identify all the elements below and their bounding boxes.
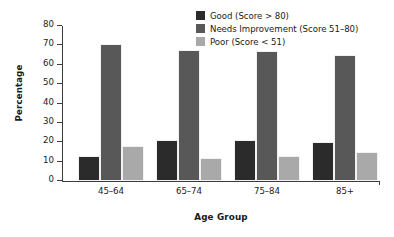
y-axis-tick-label: 20	[43, 135, 54, 146]
y-axis-tick: 60	[57, 64, 62, 65]
bar	[256, 51, 278, 181]
bar-group	[72, 26, 150, 181]
y-axis-label: Percentage	[14, 8, 28, 178]
y-axis-tick-label: 60	[43, 58, 54, 69]
bar	[78, 156, 100, 181]
y-axis-tick: 50	[57, 83, 62, 84]
bar	[200, 158, 222, 181]
legend-swatch-good	[196, 11, 205, 20]
y-axis-tick: 70	[57, 44, 62, 45]
y-axis-tick-label: 50	[43, 77, 54, 88]
legend-item-good: Good (Score > 80)	[196, 10, 358, 21]
bar-group	[228, 26, 306, 181]
x-axis-line	[62, 181, 380, 182]
y-axis-tick: 30	[57, 122, 62, 123]
bar	[312, 142, 334, 181]
bar	[356, 152, 378, 181]
bar	[100, 44, 122, 181]
y-axis-tick: 80	[57, 25, 62, 26]
legend-label-good: Good (Score > 80)	[210, 11, 289, 21]
bar-chart: Good (Score > 80) Needs Improvement (Sco…	[0, 0, 394, 237]
y-axis-tick-label: 0	[49, 174, 54, 185]
bar	[234, 140, 256, 181]
x-axis-tick-label: 65–74	[150, 186, 228, 196]
y-axis-tick: 20	[57, 141, 62, 142]
x-axis-tick-label: 85+	[306, 186, 384, 196]
x-axis-label: Age Group	[62, 212, 380, 222]
bar	[334, 55, 356, 181]
x-axis-tick-label: 75–84	[228, 186, 306, 196]
y-axis-tick: 10	[57, 161, 62, 162]
y-axis-tick-label: 40	[43, 97, 54, 108]
y-axis-tick-label: 70	[43, 38, 54, 49]
y-axis-tick-label: 80	[43, 19, 54, 30]
bar	[156, 140, 178, 181]
y-axis-tick: 0	[57, 180, 62, 181]
bar	[278, 156, 300, 181]
bar	[178, 50, 200, 181]
x-axis-end-tick	[379, 181, 380, 185]
bar-group	[150, 26, 228, 181]
plot-area: 01020304050607080 45–6465–7475–8485+	[62, 26, 380, 181]
y-axis-tick: 40	[57, 103, 62, 104]
bar-group	[306, 26, 384, 181]
y-axis-line	[62, 26, 63, 181]
y-axis-tick-label: 30	[43, 116, 54, 127]
x-axis-tick-label: 45–64	[72, 186, 150, 196]
y-axis-tick-label: 10	[43, 155, 54, 166]
bar	[122, 146, 144, 181]
